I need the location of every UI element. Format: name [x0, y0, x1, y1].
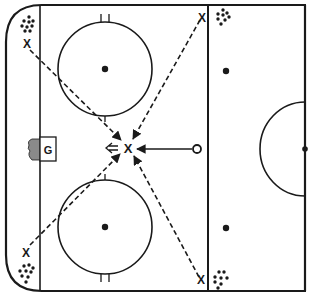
player-x-top-blueline: X: [198, 11, 206, 25]
puck-cluster-top-left: [20, 15, 34, 32]
puck-cluster-bottom-left: [18, 263, 34, 283]
shot-arrow: [106, 143, 118, 153]
puck-cluster-top-right: [216, 8, 230, 25]
faceoff-circle-top: [58, 14, 152, 122]
goalie-box: G: [40, 137, 56, 161]
center-circle: [260, 102, 305, 196]
puck-start-marker: [193, 145, 201, 153]
player-x-top-left: X: [23, 37, 31, 51]
puck-cluster-bottom-right: [213, 270, 228, 289]
faceoff-circle-bottom: [58, 174, 152, 282]
center-dot: [302, 146, 308, 152]
player-x-center-slot: X: [124, 141, 133, 156]
player-x-bottom-left: X: [22, 246, 30, 260]
pass-top-right: [133, 20, 200, 139]
pass-top-left: [30, 50, 121, 140]
hockey-rink-diagram: G X X X X X: [0, 0, 316, 295]
goal-net: [28, 139, 40, 160]
faceoff-dot: [102, 66, 108, 72]
faceoff-dot: [102, 224, 108, 230]
player-x-bottom-blueline: X: [197, 273, 205, 287]
neutral-zone-dot-bottom: [223, 225, 229, 231]
pass-bottom-right: [134, 156, 199, 277]
pass-bottom-left: [30, 154, 120, 245]
goalie-label: G: [44, 144, 53, 156]
neutral-zone-dot-top: [223, 68, 229, 74]
